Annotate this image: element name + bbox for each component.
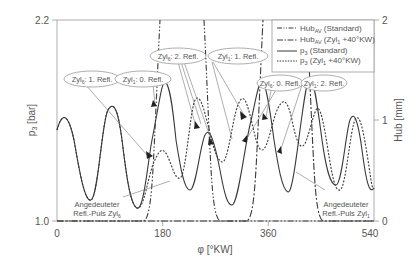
svg-text:Hub [mm]: Hub [mm] [393,98,404,142]
svg-text:Refl.-Puls Zyl6: Refl.-Puls Zyl6 [73,209,121,219]
svg-text:Angedeuteter: Angedeuteter [74,200,120,209]
note-refl-puls-zyl6: Angedeuteter Refl.-Puls Zyl6 [73,200,121,219]
callout-zyl1-1-refl: Zyl1: 1. Refl. [208,48,268,64]
svg-text:Zyl6: 2. Refl.: Zyl6: 2. Refl. [158,52,199,62]
legend-item-hub-standard: HubAV (Standard) [300,24,362,34]
note-refl-puls-zyl1: Angedeuteter Refl.-Puls Zyl1 [322,200,370,219]
x-tick-180: 180 [154,228,171,239]
callout-zyl6-1-refl: Zyl6: 1. Refl. [64,71,120,87]
callout-zyl1-0-refl: Zyl1: 0. Refl. [115,71,171,87]
chart: 2.2 1.0 2 1 0 0 180 360 540 φ [°KW] p3 [… [0,0,419,266]
svg-text:Zyl6: 0. Refl.: Zyl6: 0. Refl. [260,79,301,89]
legend-item-p3-zyl1: p3 (Zyl1 +40°KW) [300,56,361,66]
svg-text:Angedeuteter: Angedeuteter [323,200,369,209]
x-tick-0: 0 [54,228,60,239]
y-left-axis-label: p3 [bar] [26,104,38,136]
svg-text:p3 [bar]: p3 [bar] [26,104,38,136]
y-left-tick-top: 2.2 [35,15,49,26]
y-right-tick-mid: 1 [382,115,388,126]
svg-text:Zyl1: 0. Refl.: Zyl1: 0. Refl. [123,75,164,85]
legend-item-p3-standard: p3 (Standard) [300,46,348,56]
series-p3-zyl1 [57,98,374,208]
y-right-tick-top: 2 [382,15,388,26]
callout-zyl6-2-refl: Zyl6: 2. Refl. [150,48,206,64]
callout-zyl6-0-refl: Zyl6: 0. Refl. [257,75,303,91]
y-left-tick-bottom: 1.0 [35,216,49,227]
x-tick-360: 360 [260,228,277,239]
svg-text:Refl.-Puls Zyl1: Refl.-Puls Zyl1 [322,209,370,219]
callout-zyl1-2-refl: Zyl1: 2. Refl. [301,75,347,91]
x-axis-label: φ [°KW] [198,244,233,255]
svg-text:Zyl1: 2. Refl.: Zyl1: 2. Refl. [304,79,345,89]
y-right-tick-bottom: 0 [382,216,388,227]
x-tick-540: 540 [362,228,379,239]
y-right-axis-label: Hub [mm] [393,98,404,142]
svg-text:Zyl1: 1. Refl.: Zyl1: 1. Refl. [218,52,259,62]
svg-text:Zyl6: 1. Refl.: Zyl6: 1. Refl. [72,75,113,85]
legend: HubAV (Standard) HubAV (Zyl1 +40°KW) p3 … [272,20,375,72]
callout-arrowheads [146,100,282,159]
